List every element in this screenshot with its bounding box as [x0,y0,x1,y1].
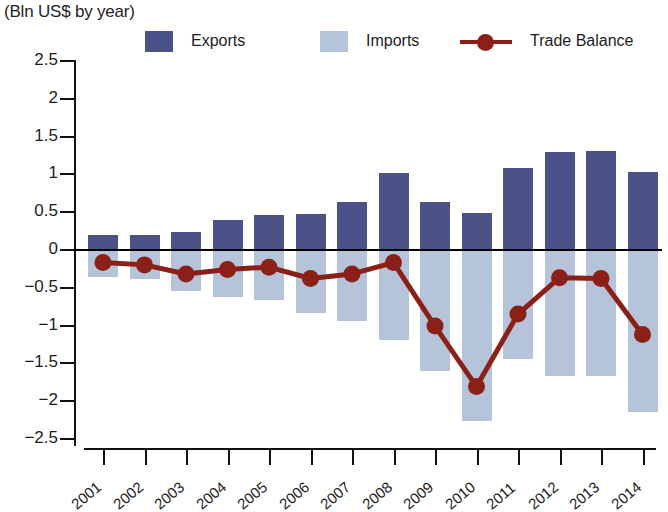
legend-swatch-icon [320,31,348,52]
x-axis-label: 2003 [151,478,187,512]
trade-balance-point [136,256,153,273]
x-axis-label: 2002 [109,478,145,512]
y-axis-tick [60,400,75,402]
y-axis-label: 0.5 [4,201,58,221]
x-axis-line [84,448,656,450]
x-axis-tick [186,448,188,465]
chart-legend: ExportsImportsTrade Balance [0,28,668,54]
y-axis-tick [60,136,75,138]
trade-balance-point [344,265,361,282]
legend-exports[interactable]: Exports [145,28,245,54]
y-axis-tick [60,60,75,62]
x-axis-label: 2010 [441,478,477,512]
trade-balance-point [385,254,402,271]
x-axis-tick [560,448,562,465]
y-axis-label: −1 [4,315,58,335]
y-axis-label: 2.5 [4,50,58,70]
y-axis-label: −2 [4,390,58,410]
y-axis-tick [60,98,75,100]
trade-balance-point [427,318,444,335]
x-axis-label: 2014 [607,478,643,512]
trade-balance-point [178,265,195,282]
trade-balance-point [261,259,278,276]
trade-balance-point [302,270,319,287]
trade-balance-line [0,55,668,455]
legend-label: Imports [366,32,419,50]
y-axis-label: −0.5 [4,277,58,297]
y-axis-tick [60,287,75,289]
x-axis-tick [228,448,230,465]
trade-balance-point [634,326,651,343]
y-axis-tick [60,173,75,175]
x-axis-label: 2006 [275,478,311,512]
legend-trade-balance[interactable]: Trade Balance [460,28,633,54]
trade-balance-point [468,378,485,395]
y-axis-tick [60,362,75,364]
x-axis-label: 2013 [566,478,602,512]
x-axis-tick [518,448,520,465]
x-axis-tick [145,448,147,465]
x-axis-tick [394,448,396,465]
x-axis-tick [477,448,479,465]
legend-swatch-icon [145,31,173,52]
x-axis-label: 2001 [68,478,104,512]
x-axis-label: 2008 [358,478,394,512]
y-axis-label: 0 [4,239,58,259]
x-axis-tick [435,448,437,465]
x-axis: 2001200220032004200520062007200820092010… [0,448,668,512]
x-axis-label: 2005 [234,478,270,512]
trade-balance-point [593,270,610,287]
x-axis-tick [311,448,313,465]
chart-root: (Bln US$ by year) ExportsImportsTrade Ba… [0,0,668,512]
chart-subtitle: (Bln US$ by year) [4,2,135,22]
x-axis-tick [103,448,105,465]
y-axis-label: 2 [4,88,58,108]
x-axis-tick [643,448,645,465]
x-axis-tick [269,448,271,465]
x-axis-tick [601,448,603,465]
y-axis-tick [60,211,75,213]
trade-balance-point [95,254,112,271]
y-axis-tick [60,325,75,327]
y-axis-tick [60,249,75,251]
x-axis-tick [352,448,354,465]
x-axis-label: 2009 [400,478,436,512]
x-axis-label: 2007 [317,478,353,512]
trade-balance-point [551,269,568,286]
y-axis-label: 1.5 [4,126,58,146]
zero-baseline [74,249,662,251]
x-axis-label: 2011 [483,479,519,512]
legend-line-marker-icon [460,31,512,52]
plot-area: 2.521.510.50−0.5−1−1.5−2−2.5 [0,55,668,455]
y-axis-label: 1 [4,163,58,183]
x-axis-label: 2004 [192,478,228,512]
x-axis-label: 2012 [524,478,560,512]
trade-balance-point [510,306,527,323]
y-axis-tick [60,438,75,440]
y-axis-label: −2.5 [4,428,58,448]
legend-label: Trade Balance [530,32,633,50]
y-axis-label: −1.5 [4,352,58,372]
trade-balance-point [219,261,236,278]
legend-label: Exports [191,32,245,50]
legend-imports[interactable]: Imports [320,28,419,54]
